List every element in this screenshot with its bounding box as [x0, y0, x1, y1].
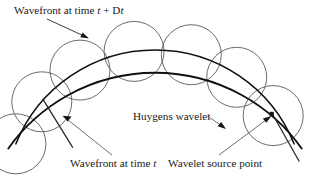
arrowhead-wavefront-later: [80, 32, 89, 38]
label-wavelet-source-point: Wavelet source point: [168, 157, 263, 169]
wavelet-source-point-marker: [270, 112, 274, 116]
label-huygens-wavelet: Huygens wavelet: [133, 110, 211, 122]
leader-line-wavefront-later: [47, 19, 84, 36]
radial-ray-left: [43, 99, 73, 147]
huygens-principle-diagram: Wavefront at time t + Dt Wavefront at ti…: [0, 0, 309, 178]
wavelet-circle: [207, 47, 267, 107]
label-wavefront-later-var2: t: [120, 4, 124, 16]
leader-line-wavelet-source-point: [219, 120, 266, 155]
label-wavefront-later-operator: + D: [100, 4, 120, 16]
label-wavefront-time-t-plus-dt: Wavefront at time t + Dt: [14, 4, 124, 16]
wavelet-circle: [0, 114, 46, 174]
label-wavefront-now-prefix: Wavefront at time: [70, 157, 153, 169]
arrowhead-wavefront-now: [63, 116, 72, 122]
label-wavefront-now-var1: t: [153, 157, 157, 169]
arrowhead-huygens-wavelet: [218, 122, 226, 129]
label-wavefront-later-prefix: Wavefront at time: [14, 4, 97, 16]
leader-line-wavefront-now: [68, 120, 112, 155]
radial-ray-right: [272, 113, 299, 161]
label-wavefront-time-t: Wavefront at time t: [70, 157, 157, 169]
